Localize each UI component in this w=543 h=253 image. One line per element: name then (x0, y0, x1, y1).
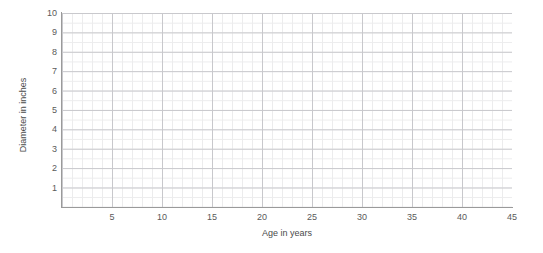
y-axis-title: Diameter in inches (18, 45, 28, 185)
x-tick-label: 30 (357, 212, 367, 222)
x-tick-label: 10 (157, 212, 167, 222)
x-tick-label: 35 (407, 212, 417, 222)
x-tick-label: 25 (307, 212, 317, 222)
blank-graph-figure: 12345678910 51015202530354045 Diameter i… (0, 0, 543, 253)
x-tick-label: 40 (457, 212, 467, 222)
x-axis-tick-labels: 51015202530354045 (0, 0, 543, 253)
x-tick-label: 5 (109, 212, 114, 222)
x-tick-label: 45 (507, 212, 517, 222)
x-tick-label: 20 (257, 212, 267, 222)
x-tick-label: 15 (207, 212, 217, 222)
x-axis-title: Age in years (62, 228, 512, 238)
